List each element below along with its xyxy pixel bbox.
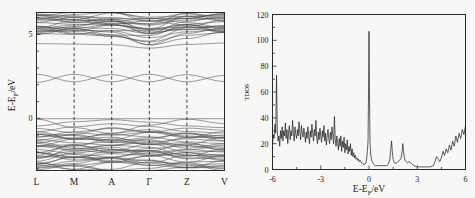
tdos-x-axis-label: E-EF/eV xyxy=(353,184,385,196)
band-kpoint-label: M xyxy=(70,177,79,187)
tdos-y-tick-label: 120 xyxy=(257,11,269,20)
tdos-y-tick-label: 40 xyxy=(261,114,269,123)
band-y-label-pre: E-E xyxy=(7,96,17,111)
band-kpoint-label: Z xyxy=(184,177,190,187)
tdos-x-ticks xyxy=(273,166,466,170)
band-structure-svg: 05 LMAΓZV E-EF/eV xyxy=(0,0,240,198)
tdos-svg: 020406080100120 -6-3036 TDOS E-EF/eV xyxy=(235,0,475,198)
tdos-x-tick-labels: -6-3036 xyxy=(269,175,467,184)
tdos-y-tick-label: 100 xyxy=(257,36,269,45)
tdos-x-tick-label: 0 xyxy=(367,175,371,184)
tdos-y-tick-label: 20 xyxy=(261,140,269,149)
tdos-curve xyxy=(273,31,466,167)
band-curve xyxy=(37,43,225,48)
band-kpoint-label: Γ xyxy=(147,177,153,187)
tdos-y-tick-label: 60 xyxy=(261,88,269,97)
tdos-y-axis-label: TDOS xyxy=(243,83,250,100)
tdos-x-tick-label: 6 xyxy=(464,175,468,184)
tdos-x-label-pre: E-E xyxy=(353,184,368,194)
band-y-tick-label: 0 xyxy=(29,114,33,123)
tdos-x-tick-label: -3 xyxy=(317,175,324,184)
tdos-x-tick-label: -6 xyxy=(269,175,276,184)
band-curves-group xyxy=(37,13,225,171)
tdos-y-tick-label: 80 xyxy=(261,62,269,71)
figure-container: 05 LMAΓZV E-EF/eV 020406080100120 -6-303… xyxy=(0,0,475,198)
band-kpoint-label: A xyxy=(108,177,115,187)
tdos-y-ticks xyxy=(273,15,277,170)
tdos-panel: 020406080100120 -6-3036 TDOS E-EF/eV xyxy=(235,0,475,198)
tdos-y-tick-labels: 020406080100120 xyxy=(257,11,269,175)
tdos-y-tick-label: 0 xyxy=(265,166,269,175)
band-y-axis-label: E-EF/eV xyxy=(7,79,19,111)
band-y-label-post: /eV xyxy=(7,79,17,93)
band-curve-filler xyxy=(37,144,225,153)
band-y-tick-labels: 05 xyxy=(29,30,33,123)
band-kpoint-labels: LMAΓZV xyxy=(34,177,228,187)
tdos-x-label-post: /eV xyxy=(371,184,385,194)
band-structure-panel: 05 LMAΓZV E-EF/eV xyxy=(0,0,240,198)
band-y-tick-label: 5 xyxy=(29,30,33,39)
band-kpoint-label: L xyxy=(34,177,40,187)
tdos-x-tick-label: 3 xyxy=(415,175,419,184)
band-kpoint-label: V xyxy=(221,177,228,187)
